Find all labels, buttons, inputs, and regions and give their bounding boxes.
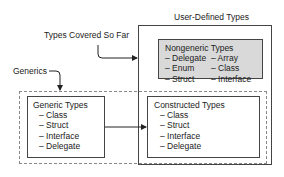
connector-layer: [0, 0, 284, 177]
generics-connector: [49, 71, 60, 90]
types-covered-connector: [98, 45, 137, 58]
